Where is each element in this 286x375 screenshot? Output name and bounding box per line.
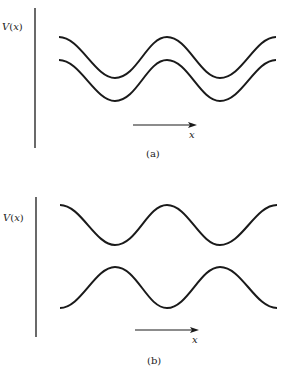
x-axis-label-a: x: [189, 129, 195, 140]
curve-b-upper: [60, 205, 277, 245]
curve-a-upper: [59, 37, 276, 78]
caption-b: (b): [147, 355, 161, 366]
caption-a: (a): [146, 148, 160, 159]
diagram: V(x) x (a) V(x) x (b): [0, 0, 286, 375]
y-axis-label-a: V(x): [2, 21, 23, 32]
panel-a: V(x) x (a): [2, 8, 276, 159]
panel-b: V(x) x (b): [3, 197, 277, 366]
y-axis-label-b: V(x): [3, 212, 24, 223]
curve-a-lower: [59, 60, 276, 101]
x-axis-label-b: x: [192, 334, 198, 345]
curve-b-lower: [60, 267, 277, 308]
